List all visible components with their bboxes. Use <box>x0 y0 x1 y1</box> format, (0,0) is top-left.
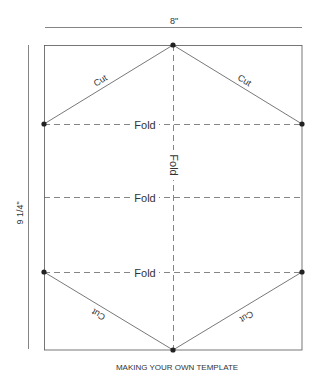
fold-label-top: Fold <box>134 119 155 131</box>
point-right-top <box>299 121 304 126</box>
fold-label-bottom: Fold <box>134 267 155 279</box>
point-top-center <box>170 42 175 47</box>
fold-label-vertical: Fold <box>168 154 180 175</box>
cut-line-bottom-left <box>44 272 173 350</box>
caption: MAKING YOUR OWN TEMPLATE <box>116 363 238 372</box>
fold-label-middle: Fold <box>134 192 155 204</box>
point-left-top <box>41 121 46 126</box>
cut-line-top-right <box>173 45 302 124</box>
width-label: 8" <box>170 16 178 26</box>
cut-line-top-left <box>44 45 173 124</box>
height-label: 9 1/4" <box>15 201 25 224</box>
cut-label-top-right: Cut <box>236 73 254 89</box>
point-bottom-center <box>170 347 175 352</box>
cut-line-bottom-right <box>173 272 302 350</box>
point-right-bottom <box>299 269 304 274</box>
point-left-bottom <box>41 269 46 274</box>
cut-label-bottom-right: Cut <box>238 309 256 325</box>
template-diagram: 8" 9 1/4" Fold Fold Fold Fold Cut Cut Cu… <box>0 0 319 388</box>
